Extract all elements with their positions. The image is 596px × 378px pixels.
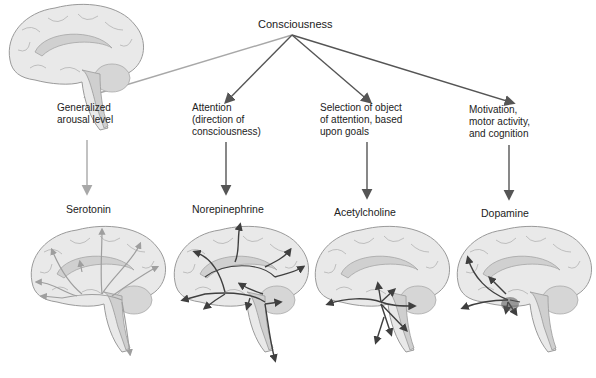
brain-illustrations (0, 0, 596, 378)
brain-serotonin (31, 226, 165, 354)
brain-dopamine (457, 226, 591, 352)
brain-acetylcholine (315, 226, 449, 352)
brain-norepinephrine (174, 225, 308, 360)
